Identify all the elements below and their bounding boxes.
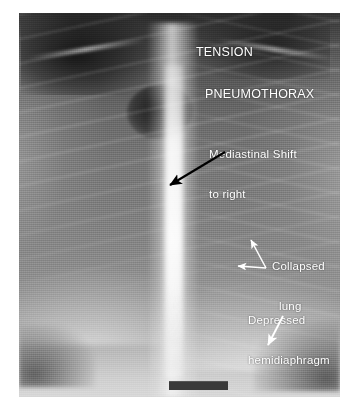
annotation-depressed-hemidiaphragm: Depressed hemidiaphragm [248, 288, 330, 393]
annotation-mediastinal-shift: Mediastinal Shift to right [209, 122, 297, 227]
annotation-mediastinal-shift-line2: to right [209, 188, 297, 201]
diagnosis-title-line1: TENSION [196, 45, 314, 59]
annotation-depressed-hemidiaphragm-line1: Depressed [248, 314, 330, 327]
lead-marker-bar [169, 381, 228, 390]
radiograph-figure: R TENSION PNEUMOTHORAX Mediastinal Shift… [0, 0, 357, 417]
annotation-depressed-hemidiaphragm-line2: hemidiaphragm [248, 354, 330, 367]
annotation-collapsed-lung-line1: Collapsed [272, 260, 325, 273]
diagnosis-title: TENSION PNEUMOTHORAX [196, 16, 314, 130]
diagnosis-title-line2: PNEUMOTHORAX [196, 87, 314, 101]
annotation-mediastinal-shift-line1: Mediastinal Shift [209, 148, 297, 161]
